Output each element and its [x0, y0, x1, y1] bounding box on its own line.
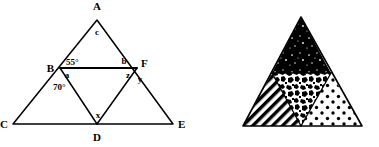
outer-triangle-ACE	[13, 20, 173, 124]
angle-label-55: 55°	[66, 57, 79, 67]
figure-svg: A B C D E F 55° 70° a b c x y z	[0, 0, 379, 147]
segment-DF	[97, 68, 137, 124]
left-diagram-group: A B C D E F 55° 70° a b c x y z	[0, 0, 185, 143]
var-label-y: y	[138, 74, 143, 84]
var-label-b: b	[121, 56, 126, 66]
region-top-triangle	[272, 17, 331, 73]
var-label-c: c	[95, 27, 99, 37]
vertex-label-E: E	[178, 118, 185, 130]
vertex-label-B: B	[47, 62, 55, 74]
vertex-label-C: C	[0, 118, 8, 130]
var-label-a: a	[65, 70, 70, 80]
right-diagram-group	[243, 17, 362, 126]
figure-root: A B C D E F 55° 70° a b c x y z	[0, 0, 379, 147]
vertex-label-D: D	[93, 131, 101, 143]
vertex-label-A: A	[93, 0, 101, 12]
vertex-label-F: F	[141, 57, 148, 69]
angle-label-70: 70°	[53, 82, 66, 92]
var-label-z: z	[126, 70, 130, 80]
var-label-x: x	[96, 110, 101, 120]
